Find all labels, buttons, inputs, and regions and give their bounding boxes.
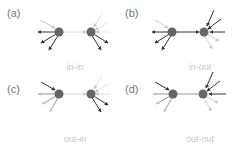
panel-d-graph — [153, 72, 226, 112]
panel-b-tag: (b) — [125, 7, 138, 19]
panel-b-caption: in-out — [189, 62, 212, 72]
node-c-left — [55, 90, 64, 99]
node-d-left — [169, 90, 178, 99]
panel-b-graph — [152, 10, 225, 50]
node-a-right — [87, 28, 96, 37]
panel-c-caption: out-in — [64, 134, 87, 144]
node-d-right — [199, 90, 208, 99]
panel-d-tag: (d) — [125, 83, 138, 95]
panel-c-graph — [38, 74, 110, 112]
panel-a-tag: (a) — [7, 7, 20, 19]
node-b-left — [168, 28, 177, 37]
diagram-canvas — [0, 0, 239, 154]
node-b-right — [200, 28, 209, 37]
node-c-right — [87, 90, 96, 99]
node-a-left — [55, 28, 64, 37]
panel-a-graph — [38, 12, 110, 50]
panel-d-caption: out-out — [186, 134, 214, 144]
panel-a-caption: in-in — [66, 62, 83, 72]
panel-c-tag: (c) — [7, 83, 20, 95]
